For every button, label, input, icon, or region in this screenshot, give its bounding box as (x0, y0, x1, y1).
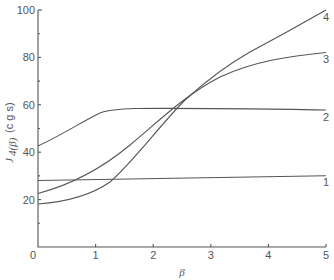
x-axis-label: β (178, 266, 185, 278)
y-tick-40: 40 (23, 146, 35, 158)
y-tick-80: 80 (23, 51, 35, 63)
axes (38, 10, 326, 247)
curve-label-2: 2 (323, 111, 329, 123)
y-tick-100: 100 (17, 4, 35, 16)
x-tick-5: 5 (323, 249, 329, 261)
curve-1 (38, 176, 326, 181)
y-axis-label: J 4(β) (c g s) (3, 102, 19, 163)
curve-4 (38, 10, 326, 204)
curve-label-4: 4 (323, 11, 329, 23)
y-axis-subscript: 4(β) (6, 137, 19, 156)
y-ticks (38, 10, 42, 223)
x-tick-1: 1 (93, 249, 99, 261)
curve-label-1: 1 (323, 176, 329, 188)
origin-label: 0 (30, 249, 36, 261)
x-tick-2: 2 (150, 249, 156, 261)
chart: 100 80 60 40 20 0 1 2 3 4 5 β J 4(β) (c … (0, 0, 334, 280)
y-axis-symbol: J (3, 157, 15, 163)
curve-label-3: 3 (323, 53, 329, 65)
y-tick-60: 60 (23, 99, 35, 111)
y-tick-20: 20 (23, 194, 35, 206)
y-axis-units: (c g s) (3, 102, 15, 133)
curve-2 (38, 108, 326, 146)
x-tick-3: 3 (208, 249, 214, 261)
x-tick-4: 4 (265, 249, 271, 261)
